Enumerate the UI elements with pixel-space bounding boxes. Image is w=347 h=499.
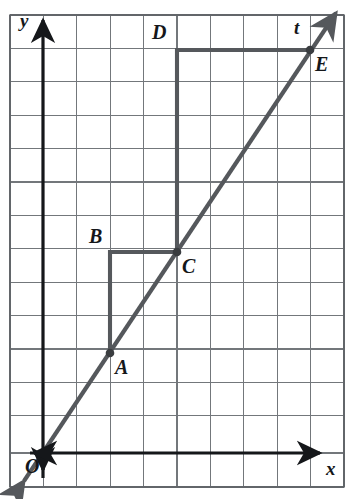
point-dot-C xyxy=(173,248,182,257)
point-label-A: A xyxy=(115,357,128,377)
axis-label-x: x xyxy=(326,459,336,478)
point-dot-A xyxy=(106,349,115,358)
point-label-O: O xyxy=(25,456,39,476)
point-label-E: E xyxy=(315,54,328,74)
point-label-D: D xyxy=(152,22,166,42)
coordinate-grid-diagram xyxy=(0,0,347,499)
axis-label-y: y xyxy=(20,11,28,30)
point-label-B: B xyxy=(89,226,102,246)
line-label-t: t xyxy=(294,18,299,37)
point-dot-E xyxy=(306,46,315,55)
point-label-C: C xyxy=(182,256,195,276)
